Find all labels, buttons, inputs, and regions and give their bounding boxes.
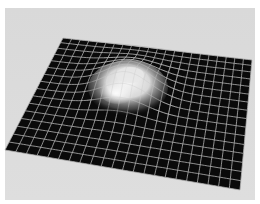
bump-cap [116, 67, 144, 83]
rendered-scene [0, 0, 260, 204]
